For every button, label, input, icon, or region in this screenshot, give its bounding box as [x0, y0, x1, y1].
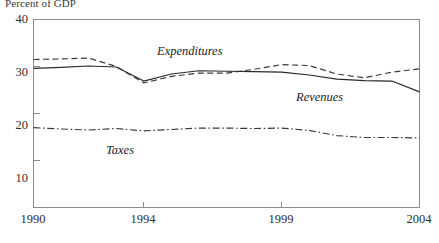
plot-area — [0, 0, 439, 243]
series-line-taxes — [34, 128, 420, 138]
y-tick-marks — [34, 20, 40, 161]
axis-frame — [34, 20, 420, 208]
series-lines — [34, 58, 420, 138]
series-line-revenues — [34, 66, 420, 92]
chart-figure: Percent of GDP 40 30 20 10 1990 1994 199… — [0, 0, 439, 243]
x-tick-marks — [34, 202, 420, 208]
series-line-expenditures — [34, 58, 420, 83]
